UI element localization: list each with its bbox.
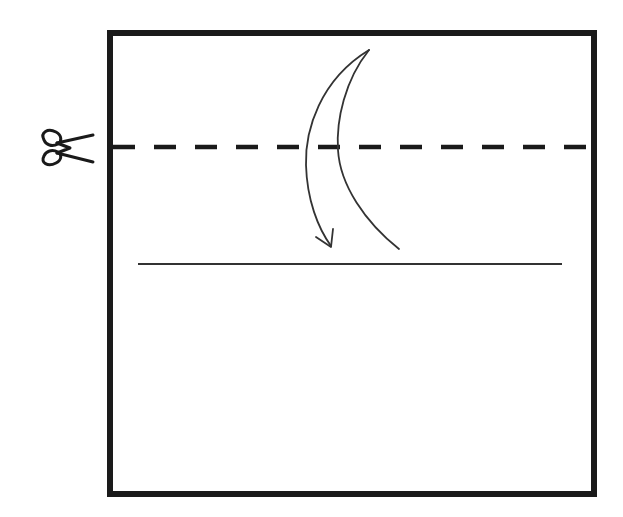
fold-diagram xyxy=(0,0,623,517)
scissors-icon xyxy=(43,130,93,164)
